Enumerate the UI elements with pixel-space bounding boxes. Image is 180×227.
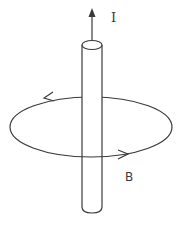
current-arrow-icon [89,8,96,40]
field-label: B [125,170,133,184]
current-label: I [111,10,116,25]
diagram-canvas: I B [0,0,180,227]
field-direction-arrow-left-icon [44,92,54,101]
wire-cylinder [82,41,102,214]
wire-top-cap [82,41,102,50]
